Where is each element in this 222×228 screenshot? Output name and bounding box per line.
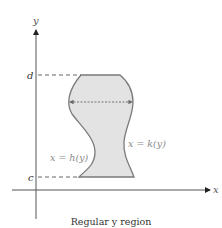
c-label: c bbox=[28, 172, 34, 183]
d-label: d bbox=[27, 70, 33, 81]
x-axis-label: x bbox=[213, 184, 219, 195]
y-axis-label: y bbox=[32, 15, 39, 26]
regular-y-region-figure: y x d c x = h(y) x = k(y) Regular y regi… bbox=[0, 0, 222, 228]
figure-caption: Regular y region bbox=[71, 216, 152, 227]
right-curve-label: x = k(y) bbox=[128, 138, 166, 149]
left-curve-label: x = h(y) bbox=[50, 152, 89, 163]
